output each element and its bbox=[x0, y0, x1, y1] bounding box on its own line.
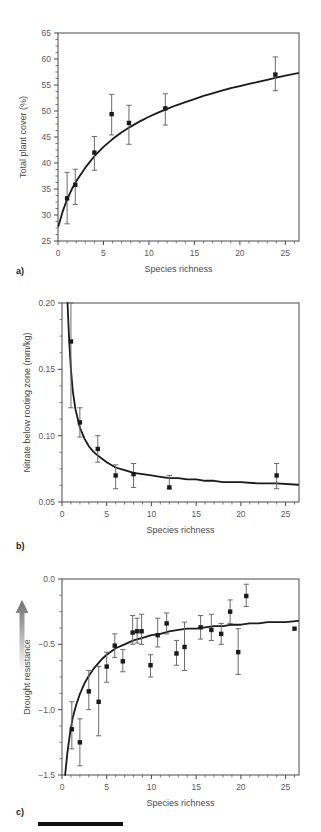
x-tick-label: 15 bbox=[190, 248, 200, 258]
x-tick-label: 20 bbox=[236, 509, 246, 519]
data-point bbox=[164, 621, 168, 625]
data-point bbox=[292, 626, 296, 630]
panel-label-c: c) bbox=[16, 807, 24, 817]
data-point bbox=[87, 689, 91, 693]
y-tick-label: 30 bbox=[42, 210, 52, 220]
data-point bbox=[236, 650, 240, 654]
x-tick-label: 25 bbox=[281, 509, 291, 519]
panel-label-a: a) bbox=[16, 266, 24, 276]
data-point bbox=[219, 632, 223, 636]
y-tick-label: 45 bbox=[42, 132, 52, 142]
data-point bbox=[163, 106, 167, 110]
error-bars-b bbox=[68, 303, 279, 489]
x-axis-c: 0510152025 bbox=[60, 775, 295, 792]
y-axis-title-b: Nitrate below rooting zone (mm/kg) bbox=[22, 332, 32, 472]
data-point bbox=[135, 629, 139, 633]
data-point bbox=[167, 485, 171, 489]
data-point bbox=[78, 740, 82, 744]
x-tick-label: 20 bbox=[236, 782, 246, 792]
x-tick-label: 10 bbox=[147, 509, 157, 519]
data-point bbox=[113, 473, 117, 477]
data-point bbox=[155, 633, 159, 637]
data-point bbox=[131, 472, 135, 476]
y-tick-label: 55 bbox=[42, 80, 52, 90]
chart-b-svg: 0.050.100.150.200510152025Species richne… bbox=[0, 280, 321, 557]
chart-c-svg: −1.5−1.0−0.50.00510152025Species richnes… bbox=[0, 557, 321, 832]
x-axis-title-b: Species richness bbox=[146, 525, 215, 535]
data-point bbox=[139, 629, 143, 633]
data-point bbox=[244, 594, 248, 598]
y-tick-label: 40 bbox=[42, 158, 52, 168]
data-point bbox=[209, 628, 213, 632]
plot-area-c: −1.5−1.0−0.50.00510152025Species richnes… bbox=[22, 574, 299, 808]
data-point bbox=[73, 183, 77, 187]
data-point bbox=[78, 420, 82, 424]
x-axis-title-c: Species richness bbox=[146, 798, 215, 808]
y-tick-label: −1.5 bbox=[38, 770, 55, 780]
data-point bbox=[130, 630, 134, 634]
y-axis-title-a: Total plant cover (%) bbox=[18, 96, 28, 178]
data-point bbox=[92, 150, 96, 154]
markers-b bbox=[69, 339, 279, 489]
chart-a-svg: 2530354045505560650510152025Species rich… bbox=[0, 0, 321, 280]
x-tick-label: 10 bbox=[147, 782, 157, 792]
x-axis-b: 0510152025 bbox=[60, 502, 295, 519]
x-axis-title-a: Species richness bbox=[144, 264, 213, 274]
fit-curve-b bbox=[68, 303, 299, 485]
data-point bbox=[96, 700, 100, 704]
y-tick-label: 60 bbox=[42, 54, 52, 64]
y-tick-label: 50 bbox=[42, 106, 52, 116]
data-point bbox=[198, 625, 202, 629]
up-arrow-gradient-icon bbox=[14, 600, 30, 672]
data-point bbox=[127, 121, 131, 125]
x-tick-label: 15 bbox=[191, 509, 201, 519]
y-tick-label: 0.05 bbox=[38, 497, 55, 507]
data-point bbox=[96, 447, 100, 451]
y-axis-c: −1.5−1.0−0.50.0 bbox=[38, 574, 62, 780]
data-point bbox=[182, 645, 186, 649]
data-point bbox=[121, 659, 125, 663]
x-tick-label: 20 bbox=[235, 248, 245, 258]
y-tick-label: 0.0 bbox=[43, 574, 55, 584]
panel-b-nitrate: 0.050.100.150.200510152025Species richne… bbox=[0, 280, 321, 557]
y-tick-label: 25 bbox=[42, 236, 52, 246]
x-tick-label: 0 bbox=[56, 248, 61, 258]
x-tick-label: 10 bbox=[144, 248, 154, 258]
y-tick-label: 0.20 bbox=[38, 298, 55, 308]
data-point bbox=[273, 72, 277, 76]
x-tick-label: 0 bbox=[60, 782, 65, 792]
plot-frame-c bbox=[62, 579, 299, 775]
fit-curve-c bbox=[65, 621, 298, 775]
x-tick-label: 25 bbox=[281, 248, 291, 258]
plot-frame-b bbox=[62, 303, 299, 502]
data-point bbox=[113, 643, 117, 647]
error-bars-c bbox=[69, 584, 249, 766]
x-tick-label: 5 bbox=[104, 509, 109, 519]
y-tick-label: −1.0 bbox=[38, 705, 55, 715]
panel-c-drought-resistance: −1.5−1.0−0.50.00510152025Species richnes… bbox=[0, 557, 321, 832]
y-tick-label: 0.10 bbox=[38, 431, 55, 441]
plot-area-a: 2530354045505560650510152025Species rich… bbox=[18, 28, 299, 274]
data-point bbox=[109, 112, 113, 116]
panel-a-total-plant-cover: 2530354045505560650510152025Species rich… bbox=[0, 0, 321, 280]
data-point bbox=[69, 339, 73, 343]
data-point bbox=[274, 473, 278, 477]
data-point bbox=[105, 664, 109, 668]
y-tick-label: 0.15 bbox=[38, 364, 55, 374]
y-tick-label: 35 bbox=[42, 184, 52, 194]
data-point bbox=[148, 663, 152, 667]
x-tick-label: 5 bbox=[104, 782, 109, 792]
x-axis-a: 0510152025 bbox=[56, 241, 295, 258]
data-point bbox=[228, 609, 232, 613]
plot-area-b: 0.050.100.150.200510152025Species richne… bbox=[22, 298, 299, 535]
data-point bbox=[70, 727, 74, 731]
x-tick-label: 25 bbox=[281, 782, 291, 792]
y-axis-a: 253035404550556065 bbox=[42, 28, 58, 246]
panel-label-b: b) bbox=[16, 541, 25, 551]
x-tick-label: 5 bbox=[101, 248, 106, 258]
y-tick-label: −0.5 bbox=[38, 639, 55, 649]
markers-c bbox=[70, 594, 297, 745]
y-tick-label: 65 bbox=[42, 28, 52, 38]
x-tick-label: 0 bbox=[60, 509, 65, 519]
x-tick-label: 15 bbox=[191, 782, 201, 792]
